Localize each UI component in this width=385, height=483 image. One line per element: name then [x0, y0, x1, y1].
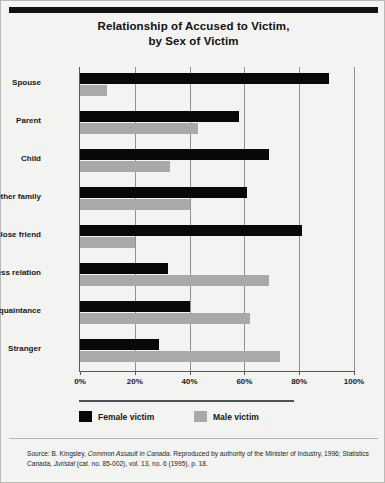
category-label: Close friend	[0, 230, 41, 239]
bar-female	[80, 301, 190, 312]
bar-female	[80, 339, 159, 350]
chart-figure: Relationship of Accused to Victim, by Se…	[0, 0, 385, 483]
x-axis-tick	[80, 371, 81, 375]
bar-female	[80, 111, 239, 122]
bar-male	[80, 85, 107, 96]
category-label: Child	[0, 154, 41, 163]
category-label: Business relation	[0, 268, 41, 277]
chart-legend: Female victim Male victim	[79, 411, 339, 429]
x-axis-tick	[354, 371, 355, 375]
bar-female	[80, 187, 247, 198]
x-axis-tick	[190, 371, 191, 375]
bar-female	[80, 225, 302, 236]
source-divider	[9, 438, 378, 439]
bar-male	[80, 237, 135, 248]
legend-divider	[79, 400, 294, 402]
source-title-common-assault: Common Assault in Canada	[88, 450, 170, 457]
bar-male	[80, 199, 190, 210]
bar-group: Stranger	[80, 339, 354, 371]
bar-group: Other family	[80, 187, 354, 219]
bar-male	[80, 313, 250, 324]
plot-area: 0%20%40%60%80%100%SpouseParentChildOther…	[79, 67, 354, 372]
x-axis-label: 60%	[224, 377, 264, 386]
legend-swatch-male-icon	[194, 411, 207, 422]
source-note: Source: B. Kingsley, Common Assault in C…	[27, 449, 372, 468]
legend-label-male: Male victim	[213, 412, 259, 422]
bar-female	[80, 73, 329, 84]
bar-group: Child	[80, 149, 354, 181]
x-axis-tick	[244, 371, 245, 375]
x-axis-label: 40%	[170, 377, 210, 386]
x-axis-label: 80%	[279, 377, 319, 386]
bar-group: Spouse	[80, 73, 354, 105]
source-prefix: Source: B. Kingsley,	[27, 450, 88, 457]
bar-male	[80, 351, 280, 362]
x-axis-label: 20%	[115, 377, 155, 386]
bar-female	[80, 149, 269, 160]
legend-item-male: Male victim	[194, 411, 259, 422]
gridline	[354, 67, 355, 371]
bar-male	[80, 123, 198, 134]
legend-item-female: Female victim	[79, 411, 154, 422]
source-suffix: (cat. no. 85-002), vol. 13, no. 6 (1995)…	[75, 460, 208, 467]
source-title-juristat: Juristat	[54, 460, 75, 467]
legend-label-female: Female victim	[98, 412, 154, 422]
x-axis-tick	[135, 371, 136, 375]
legend-swatch-female-icon	[79, 411, 92, 422]
x-axis-label: 100%	[334, 377, 374, 386]
category-label: Other family	[0, 192, 41, 201]
x-axis-tick	[299, 371, 300, 375]
x-axis-label: 0%	[60, 377, 100, 386]
bar-group: Business relation	[80, 263, 354, 295]
bar-female	[80, 263, 168, 274]
bar-group: Acquaintance	[80, 301, 354, 333]
category-label: Spouse	[0, 78, 41, 87]
category-label: Acquaintance	[0, 306, 41, 315]
bar-male	[80, 275, 269, 286]
bar-male	[80, 161, 170, 172]
bar-group: Close friend	[80, 225, 354, 257]
category-label: Parent	[0, 116, 41, 125]
bar-group: Parent	[80, 111, 354, 143]
category-label: Stranger	[0, 344, 41, 353]
